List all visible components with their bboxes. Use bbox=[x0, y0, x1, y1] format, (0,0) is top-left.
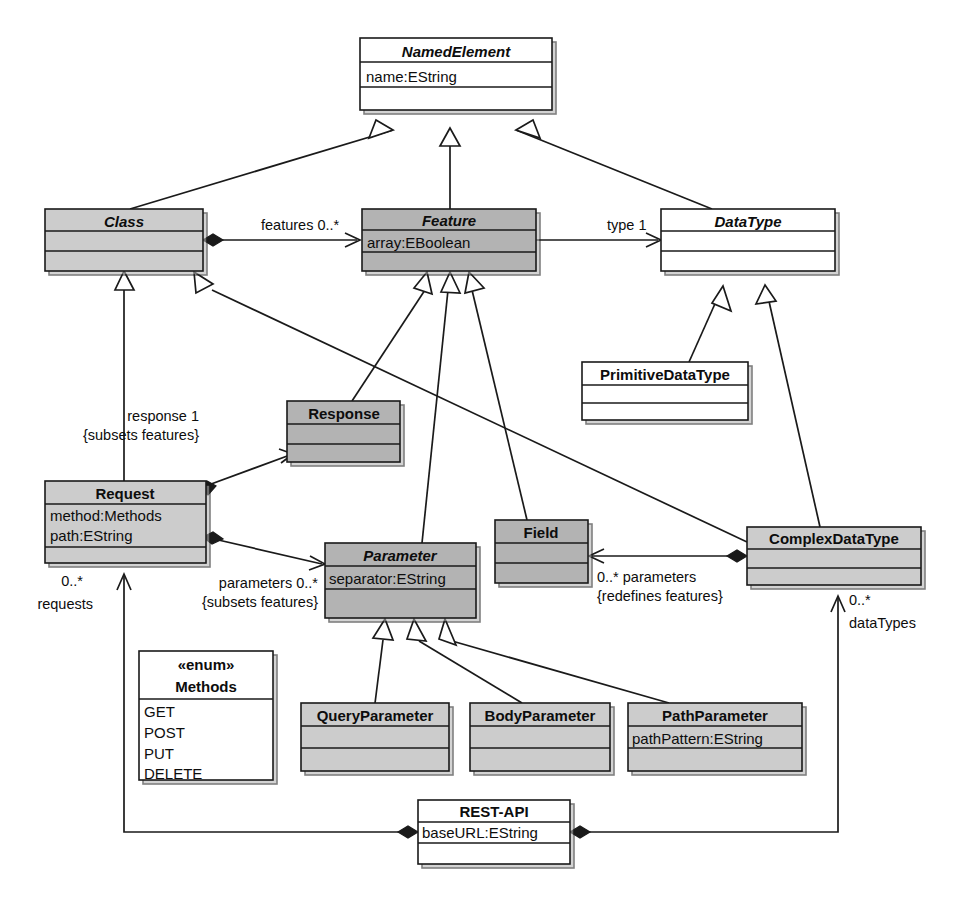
association-feature-to-datatype: type 1 bbox=[536, 217, 661, 247]
generalization-class-to-namedelement bbox=[130, 120, 393, 209]
enum-stereotype-label: «enum» bbox=[178, 656, 235, 673]
edge-label-field-role: 0..* parameters bbox=[597, 569, 696, 585]
edge-label-requests-role: requests bbox=[37, 596, 93, 612]
class-node-rest-api[interactable]: REST-API baseURL:EString bbox=[418, 800, 574, 868]
class-title-field: Field bbox=[523, 524, 558, 541]
class-node-field[interactable]: Field bbox=[495, 520, 592, 587]
class-node-feature[interactable]: Feature array:EBoolean bbox=[362, 209, 540, 275]
class-node-datatype[interactable]: DataType bbox=[661, 209, 839, 275]
edge-label-datatypes-role: dataTypes bbox=[849, 615, 916, 631]
edge-label-datatypes-mult: 0..* bbox=[849, 592, 871, 608]
class-node-bodyparameter[interactable]: BodyParameter bbox=[470, 703, 614, 775]
class-node-class[interactable]: Class bbox=[45, 209, 207, 275]
edge-label-response-constraint: {subsets features} bbox=[83, 427, 199, 443]
uml-canvas: features 0..* DataType (type 1) --> type… bbox=[0, 0, 966, 907]
edge-label-field-constraint: {redefines features} bbox=[597, 588, 723, 604]
class-title-feature: Feature bbox=[422, 212, 476, 229]
uml-class-diagram: features 0..* DataType (type 1) --> type… bbox=[0, 0, 966, 907]
composition-class-to-feature: features 0..* bbox=[203, 217, 360, 247]
class-title-parameter: Parameter bbox=[363, 547, 438, 564]
edge-label-response-role: response 1 bbox=[127, 408, 199, 424]
edge-label-features: features 0..* bbox=[261, 217, 340, 233]
class-node-namedelement[interactable]: NamedElement name:EString bbox=[360, 38, 556, 114]
enum-literal-post: POST bbox=[144, 724, 185, 741]
generalization-field-to-feature bbox=[465, 272, 527, 520]
class-node-response[interactable]: Response bbox=[287, 401, 404, 466]
edge-label-type: type 1 bbox=[607, 217, 647, 233]
enum-literal-delete: DELETE bbox=[144, 765, 202, 782]
edge-label-parameters-role: parameters 0..* bbox=[219, 575, 318, 591]
class-attribute-baseurl: baseURL:EString bbox=[422, 824, 538, 841]
enum-node-methods[interactable]: «enum» Methods GET POST PUT DELETE bbox=[139, 651, 277, 784]
enum-literal-get: GET bbox=[144, 703, 175, 720]
generalization-response-to-feature bbox=[352, 272, 432, 401]
class-attribute-method: method:Methods bbox=[50, 507, 162, 524]
class-node-request[interactable]: Request method:Methods path:EString bbox=[45, 481, 210, 567]
class-title-rest-api: REST-API bbox=[459, 803, 528, 820]
generalization-parameter-to-feature bbox=[422, 272, 460, 543]
class-title-complexdatatype: ComplexDataType bbox=[769, 530, 899, 547]
generalization-request-to-class bbox=[115, 271, 134, 481]
class-node-primitivedatatype[interactable]: PrimitiveDataType bbox=[582, 362, 752, 424]
class-attribute-path: path:EString bbox=[50, 527, 133, 544]
generalization-feature-to-namedelement bbox=[440, 128, 460, 209]
class-attribute-array: array:EBoolean bbox=[367, 234, 470, 251]
generalization-datatype-to-namedelement bbox=[516, 120, 712, 209]
class-title-namedelement: NamedElement bbox=[402, 43, 511, 60]
enum-title-methods: Methods bbox=[175, 678, 237, 695]
class-title-response: Response bbox=[308, 405, 380, 422]
class-attribute-name: name:EString bbox=[366, 68, 457, 85]
class-title-bodyparameter: BodyParameter bbox=[485, 707, 596, 724]
classes-layer: NamedElement name:EString Class Feature … bbox=[45, 38, 925, 868]
composition-complexdatatype-to-field: 0..* parameters {redefines features} bbox=[589, 549, 747, 604]
edge-label-parameters-constraint: {subsets features} bbox=[202, 594, 318, 610]
class-node-pathparameter[interactable]: PathParameter pathPattern:EString bbox=[628, 703, 806, 775]
generalization-primitivedatatype-to-datatype bbox=[689, 286, 731, 362]
class-attribute-separator: separator:EString bbox=[329, 570, 446, 587]
composition-request-to-parameter: parameters 0..* {subsets features} bbox=[202, 532, 325, 610]
generalization-queryparameter-to-parameter bbox=[373, 619, 393, 703]
generalization-pathparameter-to-parameter bbox=[439, 619, 669, 703]
class-node-queryparameter[interactable]: QueryParameter bbox=[301, 703, 453, 775]
enum-literal-put: PUT bbox=[144, 745, 174, 762]
class-title-datatype: DataType bbox=[715, 213, 782, 230]
class-title-queryparameter: QueryParameter bbox=[317, 707, 434, 724]
edge-label-requests-mult: 0..* bbox=[61, 573, 83, 589]
class-title-pathparameter: PathParameter bbox=[662, 707, 768, 724]
generalization-complexdatatype-to-datatype bbox=[756, 285, 820, 527]
generalization-bodyparameter-to-parameter bbox=[407, 619, 522, 703]
class-title-primitivedatatype: PrimitiveDataType bbox=[600, 366, 730, 383]
class-node-complexdatatype[interactable]: ComplexDataType bbox=[747, 527, 925, 589]
class-title-class: Class bbox=[104, 213, 144, 230]
class-node-parameter[interactable]: Parameter separator:EString bbox=[325, 543, 480, 622]
class-attribute-pathpattern: pathPattern:EString bbox=[632, 730, 763, 747]
class-title-request: Request bbox=[95, 485, 154, 502]
